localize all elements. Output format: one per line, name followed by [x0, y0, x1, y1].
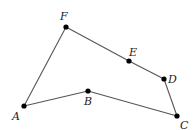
vertex-d	[161, 76, 166, 81]
label-c: C	[180, 119, 189, 130]
label-a: A	[11, 110, 20, 123]
vertex-f	[63, 24, 68, 29]
edge-d-e	[129, 61, 164, 79]
label-d: D	[167, 73, 177, 86]
label-f: F	[59, 10, 68, 23]
vertex-a	[21, 103, 26, 108]
vertex-e	[126, 58, 131, 63]
polygon-diagram: A B C D E F	[0, 0, 196, 130]
edge-f-a	[24, 27, 66, 106]
edges	[24, 27, 177, 116]
edge-a-b	[24, 91, 88, 106]
label-e: E	[128, 46, 137, 59]
vertices	[21, 24, 179, 118]
vertex-b	[85, 88, 90, 93]
edge-b-c	[88, 91, 177, 116]
label-b: B	[83, 95, 92, 108]
edge-e-f	[66, 27, 129, 61]
vertex-c	[174, 113, 179, 118]
